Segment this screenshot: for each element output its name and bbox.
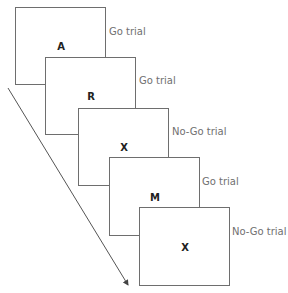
trial-label: No-Go trial [232,226,287,237]
trial-label: No-Go trial [172,126,227,137]
trial-label: Go trial [109,26,146,37]
stimulus-letter: X [181,242,189,253]
stimulus-letter: A [57,41,65,52]
stimulus-letter: R [87,91,95,102]
trial-screen-5: X [139,207,230,286]
trial-label: Go trial [202,176,239,187]
trial-label: Go trial [139,75,176,86]
stimulus-letter: X [120,142,128,153]
stimulus-letter: M [150,192,160,203]
